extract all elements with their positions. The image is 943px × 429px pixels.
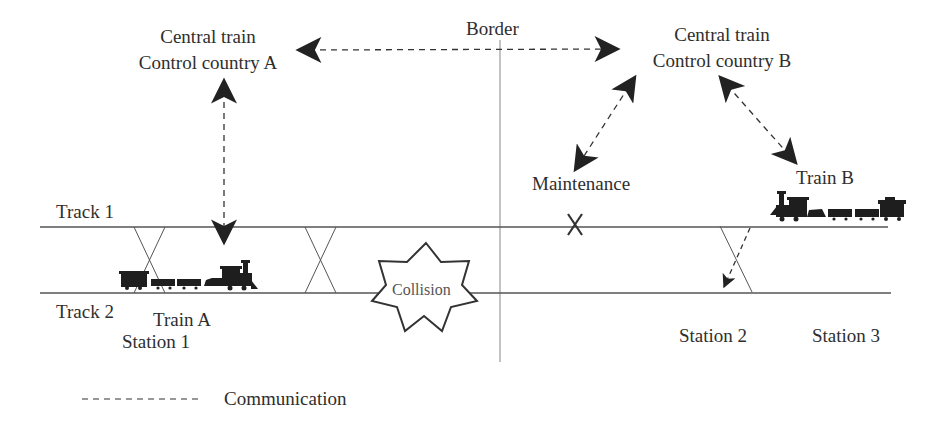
control-a-label-line1: Central train [118, 26, 298, 48]
control-a-label-line2: Control country A [118, 52, 298, 74]
train-b-icon [770, 191, 906, 222]
comm-arrow-control-b-to-maintenance [575, 77, 635, 170]
comm-arrow-control-b-to-train-b [720, 77, 796, 163]
control-b-label-line1: Central train [632, 24, 812, 46]
station-1-label: Station 1 [122, 331, 190, 353]
track-2-label: Track 2 [56, 301, 114, 323]
crossover-2 [305, 227, 336, 293]
collision-label: Collision [392, 279, 451, 301]
maintenance-x-marker [568, 214, 582, 235]
border-label: Border [466, 18, 519, 40]
legend-communication-label: Communication [224, 388, 346, 410]
crossover-3 [720, 226, 752, 292]
track-1-label: Track 1 [56, 201, 114, 223]
control-b-label-line2: Control country B [632, 50, 812, 72]
comm-arrow-control-a-to-control-b [298, 49, 618, 50]
station-3-label: Station 3 [812, 325, 880, 347]
control-b-label: Central train Control country B [632, 24, 812, 72]
comm-arrow-train-b-to-track-2 [724, 228, 750, 287]
maintenance-label: Maintenance [532, 173, 630, 195]
control-a-label: Central train Control country A [118, 26, 298, 74]
station-2-label: Station 2 [679, 325, 747, 347]
train-a-label: Train A [153, 309, 211, 331]
train-a-icon [119, 260, 258, 291]
train-b-label: Train B [796, 167, 854, 189]
